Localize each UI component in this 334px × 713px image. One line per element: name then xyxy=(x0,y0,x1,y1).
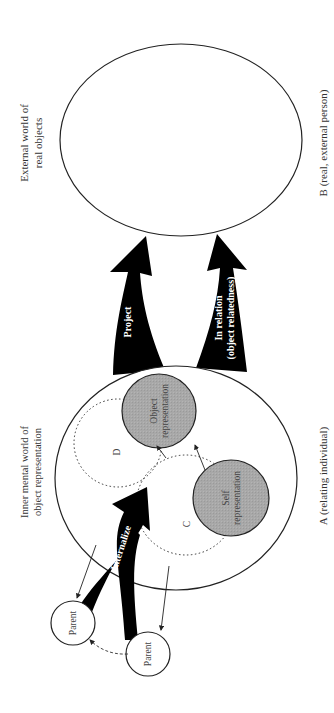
external-world-label-line2: real objects xyxy=(32,118,44,168)
inner-world-label-line1: Inner mental world of xyxy=(19,426,30,518)
object-representation-label-line2: representation xyxy=(160,384,170,438)
parent-1-label: Parent xyxy=(68,611,78,636)
person-a-label: A (relating individual) xyxy=(317,426,330,525)
person-b-label: B (real, external person) xyxy=(317,89,330,196)
object-representation-label-line1: Object xyxy=(149,398,159,424)
circle-c-label: C xyxy=(182,521,192,527)
object-representation-circle xyxy=(122,374,196,448)
project-arrow xyxy=(110,236,165,375)
self-representation-label-line1: Self xyxy=(221,490,231,506)
self-representation-circle xyxy=(193,460,269,536)
self-representation-label-line2: representation xyxy=(232,471,242,525)
parent-2-label: Parent xyxy=(143,642,153,667)
external-world-ellipse xyxy=(60,44,302,236)
inner-world-label-line2: object representation xyxy=(32,427,43,516)
circle-d-label: D xyxy=(112,448,122,455)
in-relation-arrow-label-line1: In relation xyxy=(213,295,224,341)
object-relations-diagram: External world of real objects B (real, … xyxy=(0,0,334,713)
external-world-label-line1: External world of xyxy=(18,104,30,182)
project-arrow-label: Project xyxy=(122,306,133,338)
in-relation-arrow-label-line2: (object relatedness) xyxy=(225,277,237,360)
parent-dashed-arrow xyxy=(90,640,128,654)
